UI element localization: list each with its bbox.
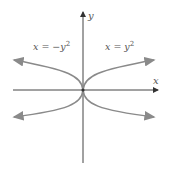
left-curve-label: x = −y2 xyxy=(33,40,70,52)
x-axis-label: x xyxy=(153,75,159,86)
parabola-diagram: y x x = −y2 x = y2 xyxy=(0,0,169,172)
curve-left-lower xyxy=(14,90,83,117)
y-axis-label: y xyxy=(87,10,94,21)
curve-right-upper xyxy=(83,60,154,90)
curve-left-upper xyxy=(14,60,83,90)
origin-point xyxy=(81,88,84,91)
curve-right-lower xyxy=(83,90,154,117)
right-curve-label: x = y2 xyxy=(105,40,134,52)
